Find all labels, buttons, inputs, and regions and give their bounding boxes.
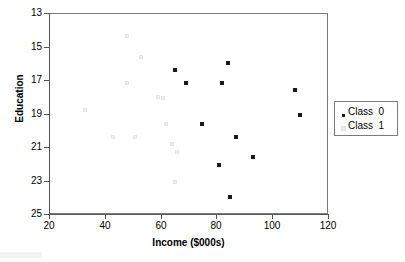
data-point (293, 88, 297, 92)
data-point (220, 81, 224, 85)
y-tick (44, 114, 49, 115)
legend: Class 0 Class 1 (334, 101, 398, 136)
x-tick (216, 214, 217, 219)
data-point (164, 122, 168, 126)
x-tick-label: 120 (308, 221, 348, 231)
legend-label-class-0: Class 0 (348, 107, 384, 117)
data-point (298, 113, 302, 117)
data-point (83, 108, 87, 112)
data-point (139, 55, 143, 59)
data-point (170, 142, 174, 146)
image-artifact (0, 252, 42, 258)
y-tick-label-wrap: 25 (12, 209, 42, 219)
x-tick (328, 214, 329, 219)
y-axis-line (49, 13, 50, 215)
x-tick-label: 20 (29, 221, 69, 231)
y-tick-label-wrap: 13 (12, 8, 42, 18)
plot-area (49, 13, 328, 214)
x-tick-label: 80 (196, 221, 236, 231)
x-tick-label: 60 (141, 221, 181, 231)
x-tick-label: 40 (85, 221, 125, 231)
x-tick-label: 100 (252, 221, 292, 231)
legend-item-class-1[interactable]: Class 1 (338, 119, 384, 133)
y-tick-label-wrap: 23 (12, 176, 42, 186)
data-point (200, 122, 204, 126)
y-tick (44, 47, 49, 48)
x-tick (49, 214, 50, 219)
data-point (156, 95, 160, 99)
data-point (111, 135, 115, 139)
data-point (173, 180, 177, 184)
x-axis-title: Income ($000s) (49, 237, 328, 248)
y-tick (44, 181, 49, 182)
x-tick (161, 214, 162, 219)
data-point (251, 155, 255, 159)
data-point (175, 150, 179, 154)
data-point (217, 163, 221, 167)
class1-marker-icon (338, 117, 348, 135)
y-tick (44, 80, 49, 81)
y-axis-title: Education (14, 49, 25, 149)
data-point (226, 61, 230, 65)
data-point (133, 135, 137, 139)
y-tick-label: 13 (16, 8, 42, 18)
scatter-chart: 25232119171513 20406080100120 Education … (0, 0, 405, 262)
data-point (228, 195, 232, 199)
y-tick (44, 13, 49, 14)
y-tick-label: 23 (16, 176, 42, 186)
x-tick (272, 214, 273, 219)
y-tick (44, 147, 49, 148)
legend-label-class-1: Class 1 (348, 121, 384, 131)
y-tick-label: 25 (16, 209, 42, 219)
data-point (234, 135, 238, 139)
x-tick (105, 214, 106, 219)
data-point (161, 96, 165, 100)
data-point (173, 68, 177, 72)
x-axis-line (49, 214, 329, 215)
data-point (125, 81, 129, 85)
data-point (125, 34, 129, 38)
data-point (184, 81, 188, 85)
